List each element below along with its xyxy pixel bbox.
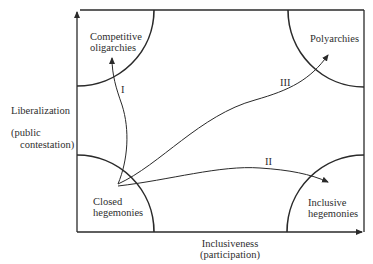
y-axis-title: Liberalization (11, 105, 70, 117)
arc-inclusive-hegemonies (287, 155, 364, 232)
arc-closed-hegemonies (77, 155, 154, 232)
region-competitive-oligarchies: Competitive oligarchies (90, 31, 142, 53)
region-label-line: Inclusive (308, 197, 358, 208)
y-axis-sublabel-line2: contestation) (11, 139, 74, 151)
region-label-line: hegemonies (308, 208, 358, 219)
region-label-line: oligarchies (90, 42, 142, 53)
path-label-II: II (265, 156, 272, 167)
path-II-arrow (118, 168, 328, 186)
y-axis-label: Liberalization (11, 105, 70, 117)
path-label-III: III (280, 77, 291, 88)
region-polyarchies: Polyarchies (310, 33, 359, 44)
y-axis-sublabel: (public contestation) (11, 127, 74, 151)
x-axis-label: Inclusiveness (participation) (190, 238, 270, 260)
region-closed-hegemonies: Closed hegemonies (93, 196, 143, 218)
region-label-line: hegemonies (93, 207, 143, 218)
x-axis-title: Inclusiveness (190, 238, 270, 249)
region-label-line: Competitive (90, 31, 142, 42)
path-III-arrow (118, 55, 328, 184)
arc-polyarchies (288, 10, 364, 87)
x-axis-sublabel: (participation) (190, 249, 270, 260)
region-label-line: Closed (93, 196, 143, 207)
region-inclusive-hegemonies: Inclusive hegemonies (308, 197, 358, 219)
region-label-line: Polyarchies (310, 33, 359, 44)
y-axis-sublabel-line1: (public (11, 127, 74, 139)
path-label-I: I (121, 84, 125, 95)
